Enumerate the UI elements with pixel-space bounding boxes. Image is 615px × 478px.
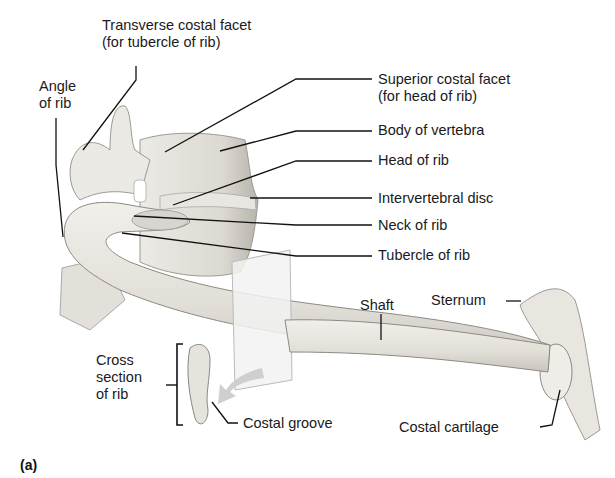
panel-label: (a) (20, 457, 37, 473)
label-head-of-rib: Head of rib (378, 152, 449, 169)
label-cross-section: Cross section of rib (96, 352, 142, 403)
label-transverse-costal-facet: Transverse costal facet (for tubercle of… (102, 17, 251, 51)
label-line: (for head of rib) (378, 88, 510, 105)
label-costal-cartilage: Costal cartilage (399, 419, 499, 436)
label-intervertebral-disc: Intervertebral disc (378, 190, 493, 207)
cross-section-shape (188, 344, 210, 423)
label-line: Angle (39, 78, 76, 95)
label-costal-groove: Costal groove (243, 415, 332, 432)
label-line: Transverse costal facet (102, 17, 251, 34)
label-line: section (96, 369, 142, 386)
label-line: Cross (96, 352, 142, 369)
label-tubercle-of-rib: Tubercle of rib (378, 247, 470, 264)
label-neck-of-rib: Neck of rib (378, 217, 447, 234)
label-superior-costal-facet: Superior costal facet (for head of rib) (378, 71, 510, 105)
label-body-of-vertebra: Body of vertebra (378, 122, 484, 139)
label-line: Superior costal facet (378, 71, 510, 88)
label-line: (for tubercle of rib) (102, 34, 251, 51)
label-line: of rib (96, 386, 142, 403)
anatomy-illustration (0, 0, 615, 478)
label-line: of rib (39, 95, 76, 112)
label-shaft: Shaft (360, 297, 394, 314)
label-angle-of-rib: Angle of rib (39, 78, 76, 112)
label-sternum: Sternum (431, 292, 486, 309)
